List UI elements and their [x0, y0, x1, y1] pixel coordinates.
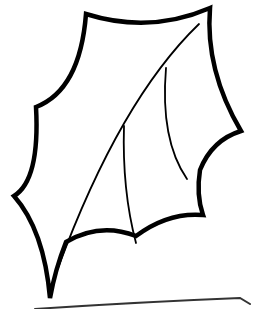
leaf-outline: [14, 8, 241, 298]
holly-leaf-drawing: holly leaf outline drawing: [0, 0, 255, 309]
leaf-vein-lower: [124, 126, 136, 243]
holly-leaf-icon: [0, 0, 255, 309]
bottom-edge-line: [35, 298, 250, 309]
leaf-vein-right: [165, 68, 187, 179]
